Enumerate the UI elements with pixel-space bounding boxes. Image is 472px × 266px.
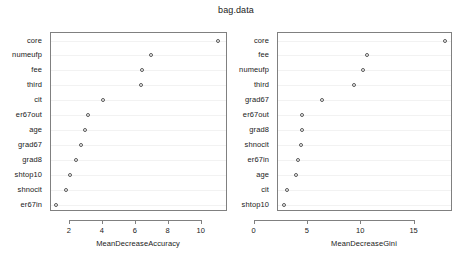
data-point (294, 173, 298, 177)
y-axis-tick-label: numeufp (0, 50, 42, 59)
panel-mean-decrease-accuracy: corenumeufpfeethirdciter67outagegrad67gr… (0, 0, 236, 266)
x-axis-tick-mark (254, 220, 255, 224)
x-axis-tick-mark (102, 220, 103, 224)
data-point (74, 158, 78, 162)
data-point (149, 53, 153, 57)
gridline (51, 55, 226, 56)
x-axis-tick-label: 10 (197, 226, 205, 235)
x-axis-tick-mark (360, 220, 361, 224)
plot-area-right (277, 32, 452, 211)
gridline (51, 130, 226, 131)
y-axis-tick-label: er67in (236, 154, 269, 163)
x-axis-tick-label: 5 (305, 226, 309, 235)
panel-mean-decrease-gini: corefeenumeufpthirdgrad67er67outgrad8shn… (236, 0, 472, 266)
gridline (51, 115, 226, 116)
data-point (282, 203, 286, 207)
gridline (278, 160, 451, 161)
y-axis-tick-label: grad67 (236, 95, 269, 104)
data-point (86, 113, 90, 117)
gridline (51, 175, 226, 176)
gridline (278, 41, 451, 42)
y-axis-tick-label: core (0, 35, 42, 44)
y-axis-tick-label: core (236, 35, 269, 44)
data-point (299, 143, 303, 147)
x-axis-tick-mark (414, 220, 415, 224)
gridline (51, 190, 226, 191)
y-axis-tick-label: third (236, 80, 269, 89)
data-point (139, 83, 143, 87)
gridline (278, 85, 451, 86)
data-point (83, 128, 87, 132)
data-point (365, 53, 369, 57)
data-point (300, 113, 304, 117)
y-axis-tick-label: grad8 (236, 125, 269, 134)
gridline (51, 205, 226, 206)
x-axis-tick-label: 4 (100, 226, 104, 235)
y-axis-tick-label: shtop10 (236, 199, 269, 208)
y-axis-tick-label: er67out (236, 110, 269, 119)
y-axis-tick-label: age (236, 169, 269, 178)
gridline (51, 145, 226, 146)
gridline (51, 41, 226, 42)
data-point (79, 143, 83, 147)
x-axis-title-right: MeanDecreaseGini (331, 239, 397, 248)
data-point (296, 158, 300, 162)
gridline (278, 205, 451, 206)
y-axis-tick-label: third (0, 80, 42, 89)
y-axis-tick-label: shtop10 (0, 169, 42, 178)
y-axis-tick-label: fee (0, 65, 42, 74)
y-axis-tick-label: age (0, 125, 42, 134)
y-axis-tick-label: cit (0, 95, 42, 104)
x-axis-tick-label: 8 (166, 226, 170, 235)
y-axis-tick-label: grad67 (0, 139, 42, 148)
gridline (278, 100, 451, 101)
x-axis-tick-label: 6 (133, 226, 137, 235)
data-point (101, 98, 105, 102)
x-axis-tick-mark (307, 220, 308, 224)
y-axis-tick-label: numeufp (236, 65, 269, 74)
gridline (278, 190, 451, 191)
plot-area-left (50, 32, 227, 211)
data-point (285, 188, 289, 192)
x-axis-title-left: MeanDecreaseAccuracy (96, 239, 180, 248)
y-axis-tick-label: grad8 (0, 154, 42, 163)
x-axis-tick-label: 10 (356, 226, 364, 235)
variable-importance-plot: bag.data corenumeufpfeethirdciter67outag… (0, 0, 472, 266)
data-point (300, 128, 304, 132)
y-axis-tick-label: er67in (0, 199, 42, 208)
data-point (64, 188, 68, 192)
gridline (278, 130, 451, 131)
gridline (278, 175, 451, 176)
y-axis-tick-label: er67out (0, 110, 42, 119)
x-axis-tick-label: 0 (251, 226, 255, 235)
data-point (320, 98, 324, 102)
x-axis-tick-mark (69, 220, 70, 224)
gridline (51, 70, 226, 71)
gridline (278, 145, 451, 146)
data-point (443, 39, 447, 43)
x-axis-tick-label: 2 (67, 226, 71, 235)
data-point (68, 173, 72, 177)
x-axis-line (254, 220, 414, 221)
y-axis-tick-label: fee (236, 50, 269, 59)
x-axis-tick-label: 15 (409, 226, 417, 235)
x-axis-tick-mark (168, 220, 169, 224)
data-point (140, 68, 144, 72)
y-axis-tick-label: shnocit (0, 184, 42, 193)
data-point (361, 68, 365, 72)
gridline (51, 100, 226, 101)
y-axis-tick-label: cit (236, 184, 269, 193)
data-point (54, 203, 58, 207)
x-axis-tick-mark (201, 220, 202, 224)
data-point (216, 39, 220, 43)
x-axis-tick-mark (135, 220, 136, 224)
y-axis-tick-label: shnocit (236, 139, 269, 148)
data-point (352, 83, 356, 87)
